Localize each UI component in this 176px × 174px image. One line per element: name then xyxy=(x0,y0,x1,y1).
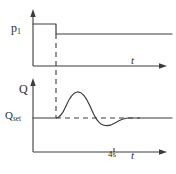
bottom-t-axis-arrow-icon xyxy=(159,149,167,154)
bottom-plot-group xyxy=(30,78,172,155)
axis-label-t-bottom: t xyxy=(131,150,134,161)
q-response-trace xyxy=(33,92,172,126)
axis-label-qset: Qset xyxy=(5,110,21,121)
axis-label-qset-sub: set xyxy=(13,115,21,123)
tick-label-4s: 4s xyxy=(108,150,116,159)
top-t-axis-arrow-icon xyxy=(159,63,167,68)
axis-label-p1-sub: 1 xyxy=(17,27,21,36)
axis-label-p1: p1 xyxy=(11,22,21,34)
p1-y-axis-arrow-icon xyxy=(30,9,35,17)
p1-step-trace xyxy=(33,24,172,34)
step-response-figure: p1 t Q Qset 4s t xyxy=(0,0,176,174)
q-y-axis-arrow-icon xyxy=(30,78,35,86)
axis-label-q: Q xyxy=(19,83,28,95)
top-plot-group xyxy=(30,9,172,69)
axis-label-qset-main: Q xyxy=(5,109,13,121)
axis-label-t-top: t xyxy=(131,55,134,66)
